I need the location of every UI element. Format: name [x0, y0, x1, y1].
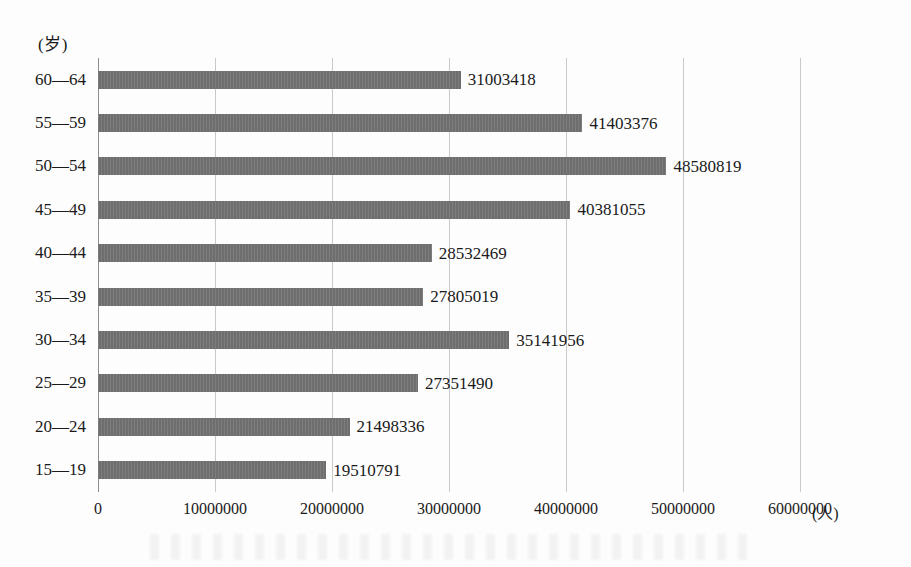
bar-row: 28532469 [98, 232, 800, 275]
x-axis-tick-label: 0 [94, 500, 102, 518]
bar-value-label: 41403376 [589, 115, 657, 132]
scan-bleed-artifact [150, 534, 750, 560]
y-axis-category-label: 45—49 [35, 188, 86, 231]
bar [98, 71, 461, 89]
bar [98, 331, 509, 349]
bar-value-label: 31003418 [468, 71, 536, 88]
bar-value-label: 28532469 [439, 245, 507, 262]
bars-layer: 3100341841403376485808194038105528532469… [98, 58, 800, 492]
bar-row: 21498336 [98, 405, 800, 448]
x-axis-tick-labels: 0100000002000000030000000400000005000000… [98, 492, 800, 532]
bar [98, 157, 666, 175]
x-axis-tick-label: 10000000 [183, 500, 247, 518]
y-axis-category-label: 35—39 [35, 275, 86, 318]
bar-row: 48580819 [98, 145, 800, 188]
y-axis-category-labels: 60—6455—5950—5445—4940—4435—3930—3425—29… [0, 58, 92, 492]
gridline [800, 58, 801, 492]
plot-area: 3100341841403376485808194038105528532469… [98, 58, 800, 492]
bar-value-label: 40381055 [577, 201, 645, 218]
y-axis-category-label: 30—34 [35, 318, 86, 361]
y-axis-category-label: 50—54 [35, 145, 86, 188]
y-axis-category-label: 20—24 [35, 405, 86, 448]
bar-row: 27805019 [98, 275, 800, 318]
bar-value-label: 35141956 [516, 332, 584, 349]
y-axis-unit-label: (岁) [38, 30, 68, 55]
bar-chart-figure: (岁) 60—6455—5950—5445—4940—4435—3930—342… [0, 0, 911, 567]
bar [98, 201, 570, 219]
x-axis-unit-label: (人) [812, 500, 839, 524]
y-axis-category-label: 15—19 [35, 449, 86, 492]
bar [98, 461, 326, 479]
bar [98, 244, 432, 262]
bar-value-label: 48580819 [673, 158, 741, 175]
bar-row: 19510791 [98, 449, 800, 492]
bar-row: 40381055 [98, 188, 800, 231]
bar-row: 27351490 [98, 362, 800, 405]
y-axis-category-label: 60—64 [35, 58, 86, 101]
bar-row: 31003418 [98, 58, 800, 101]
x-axis-tick-label: 50000000 [651, 500, 715, 518]
bar [98, 288, 423, 306]
bar-value-label: 21498336 [357, 418, 425, 435]
bar-value-label: 27351490 [425, 375, 493, 392]
bar-value-label: 19510791 [333, 462, 401, 479]
bar [98, 114, 582, 132]
x-axis-tick-label: 40000000 [534, 500, 598, 518]
bar [98, 418, 350, 436]
x-axis-tick-label: 30000000 [417, 500, 481, 518]
y-axis-category-label: 40—44 [35, 232, 86, 275]
y-axis-category-label: 55—59 [35, 101, 86, 144]
bar-row: 35141956 [98, 318, 800, 361]
x-axis-tick-label: 20000000 [300, 500, 364, 518]
bar [98, 374, 418, 392]
bar-row: 41403376 [98, 101, 800, 144]
y-axis-category-label: 25—29 [35, 362, 86, 405]
bar-value-label: 27805019 [430, 288, 498, 305]
